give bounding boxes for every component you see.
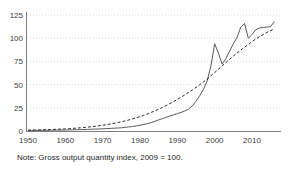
y-axis-tick-label: 100 [10, 34, 24, 43]
x-axis-tick-label: 2010 [243, 136, 261, 145]
x-axis-tick-label: 1960 [56, 136, 74, 145]
y-axis-tick-label: 75 [14, 57, 23, 66]
chart-figure: 0255075100125195019601970198019902000201… [0, 0, 288, 173]
y-axis-tick-label: 25 [14, 104, 23, 113]
x-axis-tick-label: 1950 [19, 136, 37, 145]
x-axis-tick-label: 1990 [168, 136, 186, 145]
y-axis-tick-label: 125 [10, 11, 24, 20]
y-axis-tick-label: 0 [19, 127, 24, 136]
x-axis-tick-label: 1980 [131, 136, 149, 145]
line-chart: 0255075100125195019601970198019902000201… [0, 0, 288, 150]
gross-output-trend-series-line [28, 29, 274, 130]
x-axis-tick-label: 2000 [206, 136, 224, 145]
chart-note: Note: Gross output quantity index, 2009 … [17, 153, 277, 163]
x-axis-tick-label: 1970 [94, 136, 112, 145]
y-axis-tick-label: 50 [14, 81, 23, 90]
